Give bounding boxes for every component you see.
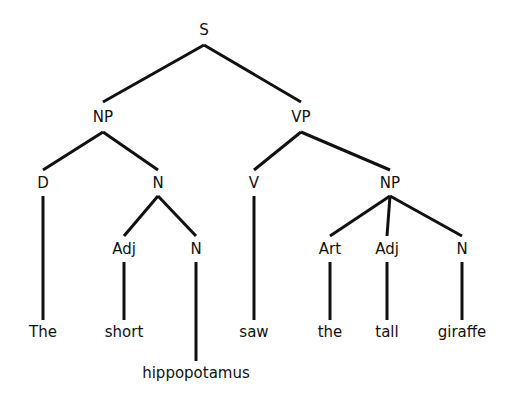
edge-N1-N2 bbox=[158, 196, 196, 236]
word-the: the bbox=[318, 323, 343, 341]
tree-edges bbox=[43, 45, 462, 361]
node-n: N bbox=[190, 240, 201, 258]
node-v: V bbox=[249, 174, 260, 192]
edge-S-NP1 bbox=[103, 45, 204, 102]
edge-N1-Adj1 bbox=[124, 196, 158, 236]
word-short: short bbox=[105, 323, 144, 341]
word-saw: saw bbox=[239, 323, 268, 341]
word-tall: tall bbox=[375, 323, 398, 341]
node-n: N bbox=[456, 240, 467, 258]
node-d: D bbox=[37, 174, 49, 192]
node-np: NP bbox=[93, 108, 113, 126]
node-s: S bbox=[199, 21, 209, 39]
syntax-tree-diagram: SNPVPDNVNPAdjNArtAdjNTheshorthippopotamu… bbox=[0, 0, 530, 400]
word-giraffe: giraffe bbox=[438, 323, 487, 341]
node-vp: VP bbox=[291, 108, 310, 126]
edge-VP-NP2 bbox=[301, 132, 390, 170]
edge-NP2-N3 bbox=[390, 196, 462, 236]
node-adj: Adj bbox=[375, 240, 399, 258]
edge-NP1-N1 bbox=[103, 132, 158, 170]
node-np: NP bbox=[380, 174, 400, 192]
edge-NP1-D bbox=[43, 132, 103, 170]
edge-VP-V bbox=[254, 132, 301, 170]
word-the: The bbox=[28, 323, 57, 341]
edge-NP2-Art bbox=[330, 196, 390, 236]
node-n: N bbox=[152, 174, 163, 192]
node-adj: Adj bbox=[112, 240, 136, 258]
edge-S-VP bbox=[204, 45, 301, 102]
word-hippopotamus: hippopotamus bbox=[142, 364, 250, 382]
edge-NP2-Adj2 bbox=[387, 196, 390, 236]
node-art: Art bbox=[319, 240, 341, 258]
